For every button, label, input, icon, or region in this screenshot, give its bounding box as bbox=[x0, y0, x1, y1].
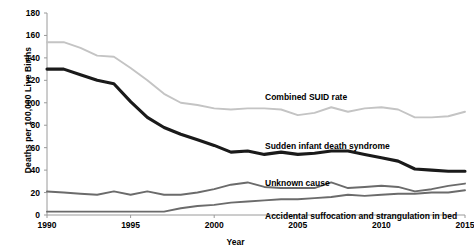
series-label: Accidental suffocation and strangulation… bbox=[265, 211, 457, 221]
series-label: Combined SUID rate bbox=[265, 92, 347, 102]
x-tick-label: 2010 bbox=[372, 220, 391, 230]
series-line bbox=[47, 69, 465, 171]
x-tick-label: 2015 bbox=[456, 220, 474, 230]
x-tick-label: 1990 bbox=[38, 220, 57, 230]
series-line bbox=[47, 190, 465, 211]
series-label: Unknown cause bbox=[265, 178, 330, 188]
x-tick-label: 1995 bbox=[121, 220, 140, 230]
series-line bbox=[47, 42, 465, 117]
x-tick-label: 2000 bbox=[205, 220, 224, 230]
series-label: Sudden infant death syndrome bbox=[265, 141, 390, 151]
x-tick-label: 2005 bbox=[288, 220, 307, 230]
